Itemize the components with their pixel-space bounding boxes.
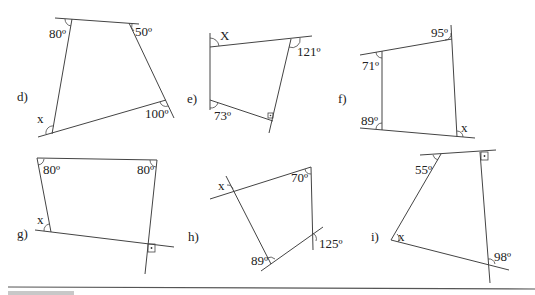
problem-h: x 70º 125º 89º h) bbox=[188, 167, 343, 271]
f-angle-89: 89º bbox=[361, 113, 378, 128]
problem-f: 71º 95º 89º x f) bbox=[338, 25, 475, 138]
g-bottom-line bbox=[35, 230, 174, 247]
bottom-grey-bar bbox=[8, 291, 74, 295]
g-problem-label: g) bbox=[17, 226, 28, 241]
d-angle-100: 100º bbox=[145, 106, 169, 121]
d-angle-arc-80 bbox=[65, 19, 71, 26]
f-top-line bbox=[360, 39, 452, 55]
h-problem-label: h) bbox=[188, 229, 199, 244]
g-angle-x: x bbox=[37, 212, 44, 227]
e-angle-x: X bbox=[220, 28, 230, 43]
d-angle-80: 80º bbox=[49, 26, 66, 41]
f-bottom-line bbox=[360, 128, 475, 138]
problem-d: 80º 50º 100º x d) bbox=[17, 18, 174, 137]
e-problem-label: e) bbox=[187, 91, 197, 106]
worksheet-figures: 80º 50º 100º x d) X 121º 73º e) 71º 95º … bbox=[0, 0, 535, 295]
f-angle-71: 71º bbox=[362, 58, 379, 73]
i-problem-label: i) bbox=[371, 229, 379, 244]
d-angle-x: x bbox=[37, 111, 44, 126]
problem-i: 55º x 98º i) bbox=[371, 150, 511, 283]
h-right-side bbox=[311, 167, 313, 250]
problem-e: X 121º 73º e) bbox=[187, 28, 321, 133]
bottom-divider bbox=[8, 287, 535, 289]
f-right-side bbox=[451, 25, 457, 137]
h-left-side bbox=[226, 176, 271, 264]
e-angle-arc-x bbox=[210, 38, 219, 46]
e-angle-121: 121º bbox=[297, 44, 321, 59]
d-angle-50: 50º bbox=[135, 24, 152, 39]
e-angle-73: 73º bbox=[214, 108, 231, 123]
e-right-side bbox=[269, 39, 291, 133]
h-angle-89: 89º bbox=[251, 253, 268, 268]
h-angle-70: 70º bbox=[291, 170, 308, 185]
h-angle-125: 125º bbox=[319, 236, 343, 251]
i-angle-x: x bbox=[398, 229, 405, 244]
i-top-line bbox=[420, 150, 496, 155]
g-angle-80-left: 80º bbox=[43, 162, 60, 177]
d-problem-label: d) bbox=[17, 89, 28, 104]
f-angle-x: x bbox=[461, 120, 468, 135]
f-angle-95: 95º bbox=[431, 25, 448, 40]
g-angle-arc-x bbox=[44, 224, 49, 231]
g-top-line bbox=[37, 158, 157, 160]
g-right-side bbox=[145, 160, 157, 274]
h-angle-x: x bbox=[218, 178, 225, 193]
f-problem-label: f) bbox=[338, 91, 347, 106]
i-angle-arc-55 bbox=[433, 155, 438, 160]
problem-g: 80º 80º x g) bbox=[17, 158, 174, 274]
i-angle-98: 98º bbox=[494, 249, 511, 264]
i-bottom-line bbox=[391, 240, 509, 270]
g-angle-80-right: 80º bbox=[137, 162, 154, 177]
i-angle-55: 55º bbox=[415, 162, 432, 177]
d-top-line bbox=[55, 18, 139, 24]
